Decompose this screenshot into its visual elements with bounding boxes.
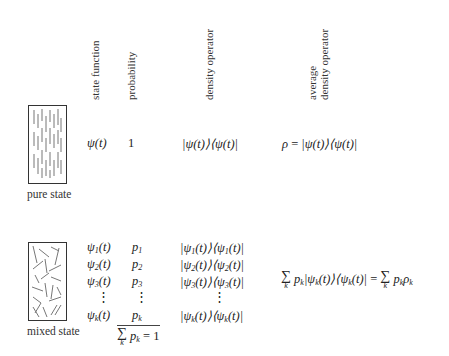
pure-state-function: ψ(t)	[87, 136, 107, 151]
mixed-average-density: ∑k pk|ψk(t)⟩⟨ψk(t)| = ∑k pkρk	[281, 270, 413, 290]
sum-symbol: ∑k	[380, 270, 390, 290]
pure-state-label: pure state	[27, 188, 71, 200]
header-average-line2: density operator	[319, 29, 330, 100]
mixed-density-k: |ψk(t)⟩⟨ψk(t)|	[180, 308, 243, 324]
normalization-equation: ∑k pk = 1	[117, 327, 159, 347]
mixed-state-ellipsis: ⋮	[97, 289, 110, 305]
header-state-function: state function	[90, 40, 101, 100]
mixed-state-row-1: ψ1(t)	[87, 240, 111, 255]
sum-symbol: ∑k	[281, 270, 291, 290]
mixed-probability-2: p2	[132, 257, 142, 272]
pure-density-operator: |ψ(t)⟩⟨ψ(t)|	[182, 136, 238, 152]
aligned-particles-icon	[29, 106, 65, 182]
pure-probability: 1	[128, 136, 134, 151]
pure-average-rhs: |ψ(t)⟩⟨ψ(t)|	[301, 137, 357, 151]
random-particles-icon	[29, 243, 65, 319]
mixed-state-row-k: ψk(t)	[87, 308, 110, 323]
rho-symbol: ρ	[282, 137, 288, 151]
mixed-probability-3: p3	[132, 274, 142, 289]
mixed-density-3: |ψ3(t)⟩⟨ψ3(t)|	[180, 274, 244, 290]
sum-symbol: ∑k	[117, 327, 127, 347]
mixed-state-box	[28, 242, 67, 321]
mixed-state-row-2: ψ2(t)	[87, 257, 111, 272]
equals-sign: =	[291, 137, 298, 151]
mixed-state-row-3: ψ3(t)	[87, 274, 111, 289]
mixed-probability-k: pk	[132, 308, 142, 323]
header-density-operator: density operator	[204, 29, 215, 100]
mixed-density-ellipsis: ⋮	[213, 289, 226, 305]
mixed-probability-1: p1	[132, 240, 142, 255]
mixed-state-label: mixed state	[27, 325, 80, 337]
header-average-line1: average	[307, 66, 318, 100]
mixed-probability-ellipsis: ⋮	[135, 289, 148, 305]
header-probability: probability	[126, 52, 137, 100]
mixed-density-1: |ψ1(t)⟩⟨ψ1(t)|	[180, 240, 244, 256]
pure-state-box	[28, 105, 67, 184]
pure-average-density: ρ = |ψ(t)⟩⟨ψ(t)|	[282, 136, 357, 152]
mixed-density-2: |ψ2(t)⟩⟨ψ2(t)|	[180, 257, 244, 273]
